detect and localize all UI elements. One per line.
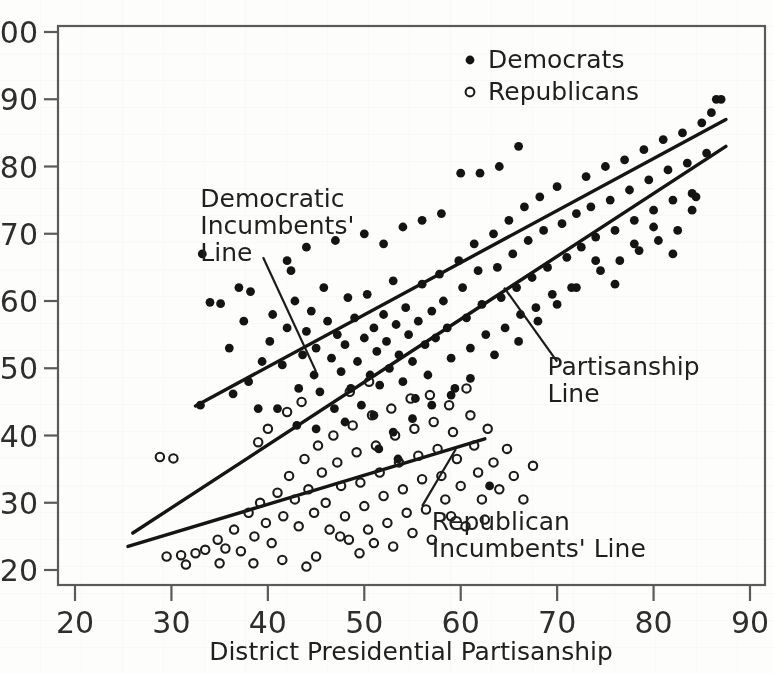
republican-point: [445, 401, 453, 409]
democrat-point: [630, 239, 639, 248]
republican-point: [449, 428, 457, 436]
y-tick-label: 50: [0, 351, 38, 386]
democrat-point: [481, 330, 490, 339]
democrat-point: [572, 209, 581, 218]
annotation-label: RepublicanIncumbents' Line: [432, 507, 646, 563]
legend-marker-republicans: [466, 88, 475, 97]
y-tick-label: 100: [0, 15, 38, 50]
democrat-point: [312, 424, 321, 433]
democrat-point: [244, 377, 253, 386]
republican-point: [341, 512, 349, 520]
democrat-point: [532, 303, 541, 312]
democrat-point: [418, 216, 427, 225]
democrat-point: [307, 307, 316, 316]
y-tick-label: 20: [0, 553, 38, 588]
annotation-label-line: Line: [548, 379, 600, 408]
democrat-point: [543, 263, 552, 272]
republican-point: [345, 536, 353, 544]
democrat-point: [389, 276, 398, 285]
democrat-point: [385, 364, 394, 373]
democrat-point: [644, 176, 653, 185]
republican-point: [478, 495, 486, 503]
democrat-point: [664, 166, 673, 175]
republican-point: [273, 489, 281, 497]
democrat-point: [363, 290, 372, 299]
democrat-point: [379, 239, 388, 248]
democrat-point: [470, 239, 479, 248]
democrat-point: [225, 344, 234, 353]
y-axis-tick-labels: 2030405060708090100: [0, 15, 38, 588]
democrat-point: [456, 169, 465, 178]
republican-point: [383, 519, 391, 527]
republican-point: [191, 549, 199, 557]
democrat-point: [294, 384, 303, 393]
republican-point: [201, 546, 209, 554]
democrat-point: [558, 219, 567, 228]
democrat-point: [401, 303, 410, 312]
republican-point: [336, 532, 344, 540]
republican-point: [214, 536, 222, 544]
x-tick-label: 20: [56, 605, 94, 640]
democrat-point: [669, 250, 678, 259]
republican-point: [352, 448, 360, 456]
democrat-point: [344, 293, 353, 302]
legend-label: Democrats: [488, 45, 624, 74]
democrat-point: [707, 108, 716, 117]
democrat-point: [254, 404, 263, 413]
republican-point: [430, 418, 438, 426]
democrat-point: [360, 334, 369, 343]
democrat-point: [337, 367, 346, 376]
annotation-label: PartisanshipLine: [548, 352, 700, 408]
democrat-point: [606, 196, 615, 205]
y-tick-label: 70: [0, 217, 38, 252]
democrat-point: [370, 324, 379, 333]
republican-point: [177, 551, 185, 559]
democrat-point: [265, 337, 274, 346]
democrat-point: [582, 172, 591, 181]
democrat-point: [601, 162, 610, 171]
democrat-point: [323, 317, 332, 326]
democrat-point: [235, 283, 244, 292]
republican-point: [302, 562, 310, 570]
republican-point: [408, 529, 416, 537]
republican-point: [426, 391, 434, 399]
democrat-point: [501, 324, 510, 333]
democrat-point: [495, 162, 504, 171]
x-tick-label: 90: [731, 605, 769, 640]
democrat-point: [302, 243, 311, 252]
republican-point: [529, 462, 537, 470]
democrat-point: [553, 182, 562, 191]
democrat-point: [333, 330, 342, 339]
republican-point: [264, 425, 272, 433]
republican-point: [453, 455, 461, 463]
democrat-point: [408, 357, 417, 366]
democrat-point: [427, 401, 436, 410]
democrat-point: [673, 226, 682, 235]
democrat-point: [659, 135, 668, 144]
democrat-point: [553, 300, 562, 309]
republican-point: [283, 408, 291, 416]
democrat-point: [649, 223, 658, 232]
annotation-label-line: Incumbents': [200, 211, 354, 240]
republican-point: [322, 499, 330, 507]
democrat-point: [395, 350, 404, 359]
democrat-point: [669, 196, 678, 205]
democrat-point: [437, 209, 446, 218]
democrat-point: [539, 226, 548, 235]
democrat-point: [375, 381, 384, 390]
chart-legend: DemocratsRepublicans: [466, 45, 639, 106]
democrat-point: [458, 283, 467, 292]
republican-point: [503, 445, 511, 453]
democrat-point: [424, 371, 433, 380]
republican-point: [489, 458, 497, 466]
y-axis-ticks: [44, 32, 58, 570]
democrat-point: [497, 293, 506, 302]
democrat-point: [591, 256, 600, 265]
democrat-point: [292, 421, 301, 430]
democrat-point: [273, 404, 282, 413]
plot-frame: [58, 26, 765, 585]
democrat-point: [596, 266, 605, 275]
x-tick-label: 60: [442, 605, 480, 640]
annotation-label-line: Republican: [432, 507, 570, 536]
democrat-point: [466, 344, 475, 353]
